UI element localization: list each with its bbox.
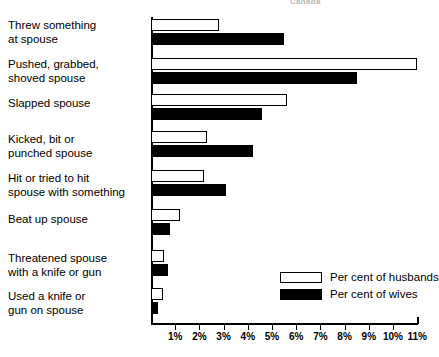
category-label: Threatened spouse with a knife or gun [8,252,107,279]
bar-husbands [151,94,287,106]
legend-label-wives: Per cent of wives [330,288,418,300]
x-tick-label: 11% [407,331,426,342]
x-tick-5 [272,324,273,330]
category-label: Beat up spouse [8,213,88,227]
x-tick-9 [369,324,370,330]
category-label: Used a knife or gun on spouse [8,290,85,317]
x-tick-label: 4% [241,331,255,342]
x-tick-2 [199,324,200,330]
x-tick-4 [248,324,249,330]
x-tick-label: 10% [383,331,403,342]
x-tick-label: 9% [362,331,376,342]
x-tick-label: 1% [168,331,182,342]
bar-husbands [151,19,219,31]
category-label: Threw something at spouse [8,19,96,46]
x-tick-label: 6% [289,331,303,342]
bar-husbands [151,131,207,143]
bar-husbands [151,288,163,300]
category-label: Kicked, bit or punched spouse [8,133,92,160]
category-label: Hit or tried to hit spouse with somethin… [8,172,125,199]
x-tick-7 [320,324,321,330]
bar-wives [151,264,168,276]
x-tick-label: 3% [216,331,230,342]
legend-label-husbands: Per cent of husbands [330,271,439,283]
category-label: Slapped spouse [8,97,90,111]
legend-item-wives: Per cent of wives [280,287,439,301]
bar-chart: Canada 1%2%3%4%5%6%7%8%9%10%11% Threw so… [0,0,439,357]
x-tick-label: 2% [192,331,206,342]
cutoff-header-text: Canada [290,0,435,6]
bar-wives [151,223,170,235]
legend-swatch-husbands-icon [280,272,322,283]
x-tick-11 [417,317,419,324]
legend-swatch-wives-icon [280,289,322,300]
bar-wives [151,108,262,120]
x-tick-10 [393,324,394,330]
x-tick-6 [296,324,297,330]
category-label: Pushed, grabbed, shoved spouse [8,58,99,85]
bar-husbands [151,58,417,70]
bar-husbands [151,170,204,182]
bar-husbands [151,250,164,262]
x-tick-label: 5% [265,331,279,342]
bar-wives [151,184,226,196]
legend: Per cent of husbands Per cent of wives [280,270,439,304]
x-tick-3 [224,324,225,330]
bar-wives [151,302,158,314]
bar-wives [151,72,357,84]
x-tick-1 [175,324,176,330]
x-tick-8 [345,324,346,330]
legend-item-husbands: Per cent of husbands [280,270,439,284]
x-axis-line [151,323,418,325]
x-tick-label: 7% [313,331,327,342]
x-tick-label: 8% [337,331,351,342]
bar-wives [151,33,284,45]
bar-wives [151,145,253,157]
bar-husbands [151,209,180,221]
